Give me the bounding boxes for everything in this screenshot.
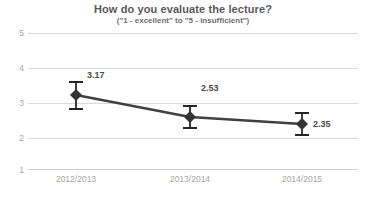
x-axis-tick-2014-2015: 2014/2015 <box>247 174 357 184</box>
data-point-2012-2013 <box>70 89 82 101</box>
data-point-2013-2014 <box>184 111 196 123</box>
chart-container: How do you evaluate the lecture? ("1 - e… <box>0 0 366 199</box>
series-graphics <box>0 0 366 199</box>
data-label-2013-2014: 2.53 <box>201 83 219 93</box>
x-axis-tick-2013-2014: 2013/2014 <box>135 174 245 184</box>
data-label-2014-2015: 2.35 <box>313 119 331 129</box>
x-axis-tick-2012-2013: 2012/2013 <box>21 174 131 184</box>
data-point-2014-2015 <box>296 118 308 130</box>
data-label-2012-2013: 3.17 <box>87 70 105 80</box>
